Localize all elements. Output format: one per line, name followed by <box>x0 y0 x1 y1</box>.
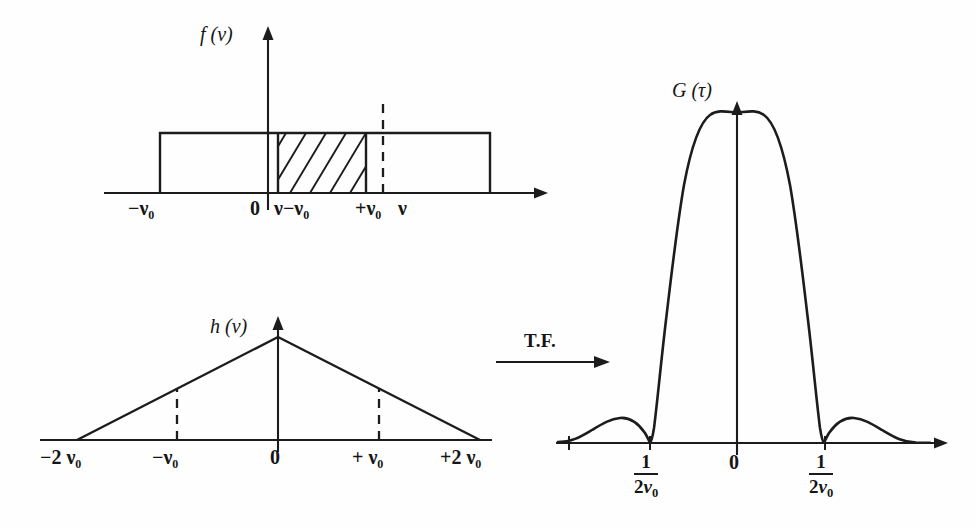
tick-label-minus-2nu0: −2 ν₀ <box>40 447 81 467</box>
tick-label-plus-nu0-top: +ν₀ <box>355 198 381 218</box>
fraction-right-var: ν <box>819 476 827 497</box>
fraction-left-denominator: 2ν0 <box>634 475 658 500</box>
tick-label-minus-nu0-triangle: −ν₀ <box>152 447 178 467</box>
sinc-tick-label-left: 1 2ν0 <box>634 452 658 500</box>
triangle-panel-graphics <box>40 316 492 452</box>
origin-label-top: 0 <box>250 198 260 218</box>
sinc-squared-curve <box>558 111 930 442</box>
tf-arrow-head <box>594 356 610 368</box>
fraction-left-coef: 2 <box>634 476 644 497</box>
top-y-axis-arrowhead <box>263 26 274 40</box>
sinc-tick-label-right: 1 2ν0 <box>809 452 833 500</box>
figure-canvas <box>0 0 977 529</box>
fraction-right-coef: 2 <box>809 476 819 497</box>
fraction-left: 1 2ν0 <box>634 452 658 500</box>
triangle-y-axis-arrowhead <box>273 316 284 330</box>
tick-label-nu-minus-nu0: ν−ν₀ <box>274 198 309 218</box>
fourier-transform-label: T.F. <box>524 331 556 350</box>
origin-label-sinc: 0 <box>729 452 739 472</box>
top-y-axis-label: f (ν) <box>200 24 233 44</box>
sinc-panel-graphics <box>556 101 948 455</box>
fraction-left-var: ν <box>644 476 652 497</box>
tick-label-plus-2nu0: +2 ν₀ <box>440 447 481 467</box>
fraction-left-sub: 0 <box>652 485 658 499</box>
triangle-y-axis-label: h (ν) <box>210 316 247 336</box>
fourier-transform-arrow-graphics <box>496 356 610 368</box>
fraction-right-numerator: 1 <box>809 452 833 475</box>
figure-root: f (ν) −ν₀ 0 ν−ν₀ +ν₀ ν h (ν) −2 ν₀ −ν₀ 0… <box>0 0 977 529</box>
band-rectangle <box>160 133 490 193</box>
overlap-hatching <box>238 113 418 213</box>
fraction-right-denominator: 2ν0 <box>809 475 833 500</box>
origin-label-triangle: 0 <box>270 447 280 467</box>
tick-label-plus-nu0-triangle: + ν₀ <box>352 447 383 467</box>
fraction-left-numerator: 1 <box>634 452 658 475</box>
sinc-y-axis-label: G (τ) <box>672 80 712 100</box>
tick-label-nu: ν <box>398 198 407 218</box>
fraction-right: 1 2ν0 <box>809 452 833 500</box>
sinc-x-axis-arrowhead <box>934 438 948 449</box>
fraction-right-sub: 0 <box>827 485 833 499</box>
top-x-axis-arrowhead <box>534 188 548 199</box>
tick-label-minus-nu0-top: −ν₀ <box>128 198 154 218</box>
rectangular-band-panel-graphics <box>104 26 548 213</box>
